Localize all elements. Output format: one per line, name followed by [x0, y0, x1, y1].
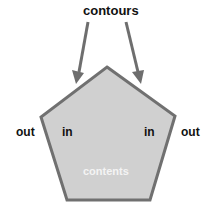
arrowhead-right-icon	[132, 70, 144, 84]
arrowhead-left-icon	[72, 70, 84, 84]
label-in-left: in	[62, 126, 73, 138]
diagram-canvas	[0, 0, 207, 210]
label-in-right: in	[144, 126, 155, 138]
label-out-left: out	[16, 126, 35, 138]
arrow-right	[126, 22, 144, 84]
arrow-left	[72, 22, 88, 84]
contours-title: contours	[83, 4, 139, 17]
label-contents: contents	[83, 166, 129, 177]
label-out-right: out	[181, 126, 200, 138]
